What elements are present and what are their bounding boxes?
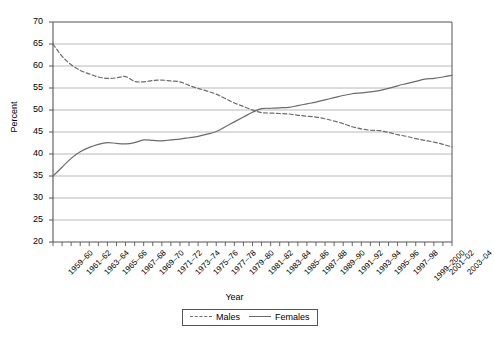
y-tick-label: 35 <box>19 171 43 180</box>
legend-swatch-dashed-icon <box>190 316 212 318</box>
legend-entry-males: Males <box>190 312 240 322</box>
y-tick-label: 20 <box>19 237 43 246</box>
y-tick-label: 40 <box>19 149 43 158</box>
legend-entry-females: Females <box>249 312 310 322</box>
y-tick-label: 55 <box>19 83 43 92</box>
y-tick-label: 60 <box>19 61 43 70</box>
y-tick-label: 65 <box>19 39 43 48</box>
chart-legend: MalesFemales <box>182 309 318 326</box>
y-tick-label: 50 <box>19 105 43 114</box>
y-tick-label: 25 <box>19 215 43 224</box>
series-line-females <box>53 75 452 176</box>
y-tick-label: 30 <box>19 193 43 202</box>
legend-label: Females <box>275 312 310 322</box>
legend-swatch-solid-icon <box>249 316 271 318</box>
series-line-males <box>53 44 452 147</box>
y-tick-label: 70 <box>19 17 43 26</box>
x-axis-title: Year <box>0 292 469 302</box>
y-tick-label: 45 <box>19 127 43 136</box>
legend-label: Males <box>216 312 240 322</box>
